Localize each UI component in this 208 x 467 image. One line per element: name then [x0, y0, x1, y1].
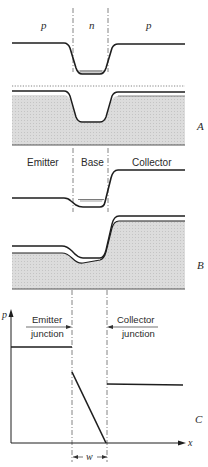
panel-b-valence-band [12, 170, 185, 207]
panel-label-c: C [195, 413, 203, 425]
x-axis-label: x [187, 437, 193, 448]
emitter-junction-label: Emitter [32, 314, 62, 325]
panel-a-valence-band [12, 43, 185, 74]
region-label-base: Base [81, 157, 104, 168]
y-axis-label: p [1, 309, 7, 320]
emitter-junction-label-2: junction [30, 328, 64, 339]
junction-guides [72, 8, 108, 462]
region-label-p-right: p [145, 19, 152, 31]
panel-c-hole-concentration [11, 347, 183, 443]
collector-junction-label: Collector [117, 314, 155, 325]
pnp-transistor-band-diagram: p n p A Emitter Base Collector B [0, 0, 208, 467]
region-label-collector: Collector [132, 157, 172, 168]
region-label-n: n [89, 19, 95, 31]
collector-junction-label-2: junction [121, 328, 155, 339]
region-label-p-left: p [40, 19, 47, 31]
base-width-label: w [86, 451, 93, 462]
panel-a-shaded-band [12, 91, 185, 145]
panel-label-b: B [197, 259, 204, 271]
panel-label-a: A [196, 120, 204, 132]
region-label-emitter: Emitter [27, 157, 59, 168]
panel-b-shaded-band [12, 216, 185, 289]
